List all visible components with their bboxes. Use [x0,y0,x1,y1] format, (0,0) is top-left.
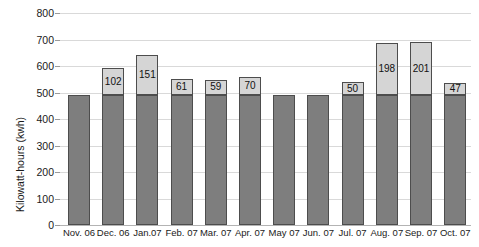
bar-segment-base[interactable] [342,95,364,225]
bar-segment-base[interactable] [444,95,466,225]
bar-group[interactable] [307,13,329,225]
bar-group[interactable] [273,13,295,225]
bar-group[interactable]: 70 [239,13,261,225]
bar-group[interactable]: 59 [205,13,227,225]
gridline-0 [60,225,471,226]
bar-group[interactable]: 198 [376,13,398,225]
bar-group[interactable]: 47 [444,13,466,225]
bar-segment-increment[interactable]: 47 [444,83,466,95]
bar-chart: Kilowatt-hours (kwh) 0100200300400500600… [0,0,479,247]
bar-value-label: 59 [210,82,221,92]
bar-group[interactable] [68,13,90,225]
y-tick-label-700: 700 [8,35,54,45]
bar-segment-base[interactable] [239,95,261,225]
bar-segment-increment[interactable]: 50 [342,82,364,95]
bar-segment-base[interactable] [136,95,158,225]
bar-segment-increment[interactable]: 70 [239,77,261,96]
bar-value-label: 198 [378,64,395,74]
bar-segment-base[interactable] [376,95,398,225]
bar-segment-base[interactable] [273,95,295,225]
bar-segment-increment[interactable]: 198 [376,43,398,95]
bar-segment-base[interactable] [68,95,90,225]
bar-value-label: 61 [176,82,187,92]
bar-segment-base[interactable] [102,95,124,225]
bar-group[interactable]: 201 [410,13,432,225]
bar-segment-increment[interactable]: 61 [171,79,193,95]
bar-group[interactable]: 61 [171,13,193,225]
bar-value-label: 201 [413,64,430,74]
y-tick-label-600: 600 [8,61,54,71]
chart-title-remnant [0,0,479,4]
bar-value-label: 50 [347,84,358,94]
bar-segment-base[interactable] [171,95,193,225]
y-tick-label-300: 300 [8,141,54,151]
y-tick-label-200: 200 [8,167,54,177]
y-tick-label-0: 0 [8,220,54,230]
bar-segment-base[interactable] [205,95,227,225]
bar-group[interactable]: 151 [136,13,158,225]
y-tick-label-800: 800 [8,8,54,18]
plot-area: 1021516159705019820147 [60,13,471,225]
y-tick-label-500: 500 [8,88,54,98]
bar-segment-base[interactable] [410,95,432,225]
bar-value-label: 70 [244,81,255,91]
bar-segment-increment[interactable]: 59 [205,80,227,96]
bar-value-label: 151 [139,70,156,80]
x-tick-label: Oct. 07 [433,228,477,238]
y-tick-label-100: 100 [8,194,54,204]
bar-group[interactable]: 50 [342,13,364,225]
bar-group[interactable]: 102 [102,13,124,225]
bar-value-label: 47 [450,84,461,94]
bar-segment-base[interactable] [307,95,329,225]
bar-segment-increment[interactable]: 102 [102,68,124,95]
y-tick-label-400: 400 [8,114,54,124]
bar-value-label: 102 [105,77,122,87]
bar-segment-increment[interactable]: 151 [136,55,158,95]
bar-segment-increment[interactable]: 201 [410,42,432,95]
